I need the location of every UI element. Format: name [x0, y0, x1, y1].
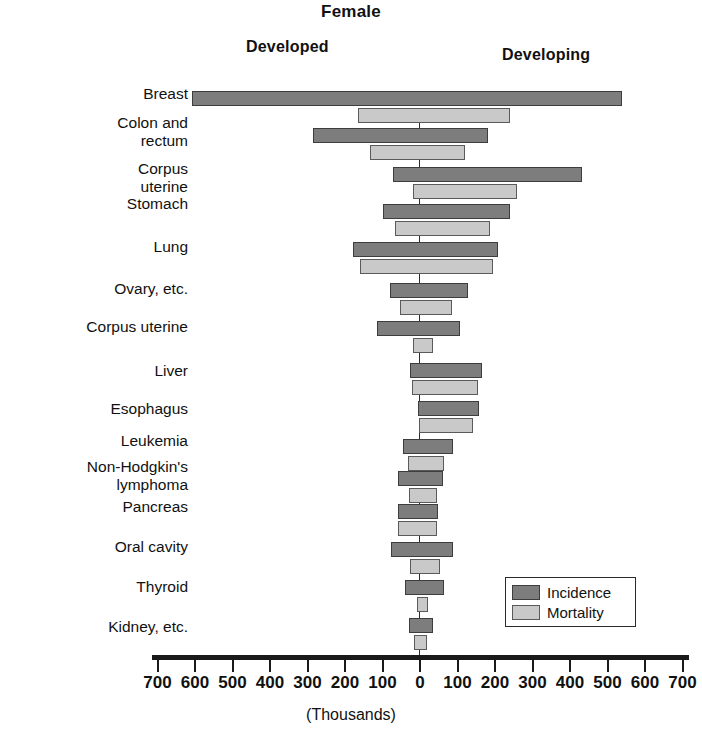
bar-incidence — [390, 283, 468, 298]
x-axis-tick — [457, 658, 459, 672]
x-axis-tick — [382, 658, 384, 672]
chart-title: Female — [0, 2, 702, 22]
bar-mortality — [412, 380, 478, 395]
category-label: Leukemia — [33, 432, 188, 450]
legend-label-incidence: Incidence — [547, 585, 611, 600]
x-axis-tick — [644, 658, 646, 672]
category-label: Lung — [33, 238, 188, 256]
x-axis-tick-label: 400 — [256, 673, 284, 693]
category-label: Breast — [33, 85, 188, 103]
x-axis-tick — [344, 658, 346, 672]
region-label-developing: Developing — [502, 46, 590, 64]
x-axis-tick-label: 700 — [143, 673, 171, 693]
category-label: Colon and rectum — [33, 114, 188, 149]
x-axis-tick — [607, 658, 609, 672]
x-axis-tick-label: 500 — [593, 673, 621, 693]
bar-mortality — [370, 145, 465, 160]
bar-mortality — [395, 221, 490, 236]
category-label: Kidney, etc. — [33, 618, 188, 636]
bar-mortality — [400, 300, 452, 315]
x-axis-tick — [157, 658, 159, 672]
cancer-incidence-mortality-chart: Female Developed Developing BreastColon … — [0, 0, 702, 742]
bar-incidence — [192, 91, 622, 106]
region-label-developed: Developed — [246, 38, 329, 56]
x-axis-tick-label: 200 — [331, 673, 359, 693]
x-axis-title: (Thousands) — [0, 706, 702, 724]
x-axis-tick — [569, 658, 571, 672]
legend-swatch-incidence-icon — [512, 585, 540, 600]
legend-item-mortality: Mortality — [512, 603, 629, 621]
bar-mortality — [414, 635, 426, 650]
x-axis-tick — [494, 658, 496, 672]
bar-mortality — [409, 488, 437, 503]
legend-swatch-mortality-icon — [512, 605, 540, 620]
x-axis-tick-label: 100 — [368, 673, 396, 693]
bar-mortality — [410, 559, 440, 574]
category-label: Non-Hodgkin's lymphoma — [33, 458, 188, 493]
bar-incidence — [313, 128, 488, 143]
bar-incidence — [398, 471, 443, 486]
bar-incidence — [405, 580, 444, 595]
bar-incidence — [391, 542, 453, 557]
x-axis-tick — [307, 658, 309, 672]
x-axis-tick-label: 600 — [181, 673, 209, 693]
bar-incidence — [353, 242, 498, 257]
x-axis-tick-label: 700 — [668, 673, 696, 693]
bar-mortality — [413, 184, 517, 199]
bar-incidence — [393, 167, 582, 182]
zero-axis-connector — [419, 160, 420, 167]
plot-area: BreastColon and rectumCorpus uterineStom… — [0, 80, 702, 655]
x-axis-tick — [419, 658, 421, 672]
bar-mortality — [417, 597, 428, 612]
x-axis-tick — [269, 658, 271, 672]
legend-label-mortality: Mortality — [547, 605, 604, 620]
x-axis-tick-label: 0 — [415, 673, 424, 693]
x-axis-tick-label: 200 — [481, 673, 509, 693]
x-axis-tick — [232, 658, 234, 672]
bar-mortality — [419, 418, 473, 433]
category-label: Ovary, etc. — [33, 280, 188, 298]
x-axis-tick-label: 100 — [443, 673, 471, 693]
category-label: Corpus uterine — [33, 160, 188, 195]
x-axis-tick-label: 300 — [293, 673, 321, 693]
bar-incidence — [403, 439, 453, 454]
x-axis-tick — [682, 658, 684, 672]
bar-incidence — [418, 401, 479, 416]
bar-mortality — [358, 108, 510, 123]
x-axis-tick — [532, 658, 534, 672]
bar-incidence — [410, 363, 482, 378]
bar-incidence — [377, 321, 460, 336]
x-axis-tick-label: 300 — [518, 673, 546, 693]
bar-mortality — [408, 456, 445, 471]
bar-mortality — [398, 521, 437, 536]
bar-mortality — [413, 338, 433, 353]
bar-incidence — [409, 618, 433, 633]
category-label: Stomach — [33, 195, 188, 213]
x-axis-tick — [194, 658, 196, 672]
category-label: Liver — [33, 362, 188, 380]
bar-incidence — [383, 204, 510, 219]
legend-item-incidence: Incidence — [512, 583, 629, 601]
category-label: Pancreas — [33, 498, 188, 516]
zero-axis-connector — [419, 353, 420, 363]
zero-axis-connector — [419, 274, 420, 283]
x-axis-tick-label: 400 — [556, 673, 584, 693]
x-axis-tick-label: 600 — [631, 673, 659, 693]
x-axis-tick-label: 500 — [218, 673, 246, 693]
bar-mortality — [360, 259, 493, 274]
category-label: Thyroid — [33, 578, 188, 596]
category-label: Esophagus — [33, 400, 188, 418]
bar-incidence — [398, 504, 439, 519]
legend: Incidence Mortality — [505, 577, 636, 627]
category-label: Corpus uterine — [33, 318, 188, 336]
category-label: Oral cavity — [33, 538, 188, 556]
